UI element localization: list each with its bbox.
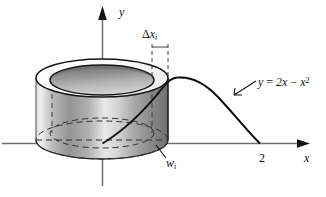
- cylindrical-shell: [34, 59, 170, 165]
- delta-symbol: Δ: [142, 27, 150, 41]
- x-axis-label: x: [304, 152, 309, 164]
- parabola-right-branch: [178, 77, 261, 143]
- equation-term1: 2x: [276, 75, 287, 89]
- shell-radius-label: wi: [166, 157, 176, 171]
- equation-equals: =: [266, 75, 273, 89]
- delta-x-label: Δxi: [142, 28, 157, 42]
- figure-canvas: [0, 0, 326, 197]
- shell-method-figure: y x 2 Δxi wi y = 2x − x2: [0, 0, 326, 197]
- leader-lines: [156, 81, 256, 158]
- x-tick-label-2: 2: [259, 152, 265, 164]
- w-variable: w: [166, 156, 174, 170]
- equation-minus: −: [290, 75, 297, 89]
- equation-lhs: y: [258, 75, 263, 89]
- x-axis-arrowhead: [297, 139, 310, 147]
- w-subscript: i: [174, 162, 176, 171]
- delta-x-subscript: i: [155, 33, 157, 42]
- y-axis-label: y: [119, 6, 124, 18]
- equation-term2-exponent: 2: [306, 76, 310, 85]
- y-axis-arrowhead: [98, 6, 107, 20]
- leader-line-equation: [234, 81, 256, 95]
- curve-equation-label: y = 2x − x2: [258, 76, 310, 88]
